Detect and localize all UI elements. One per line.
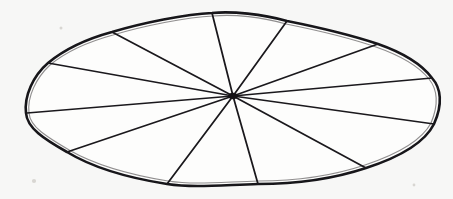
radial-sector-drawing <box>0 0 453 199</box>
figure-canvas: Hand-drawn irregular oval with a scallop… <box>0 0 453 199</box>
hub-point <box>228 93 238 99</box>
paper-speck <box>60 27 63 30</box>
paper-speck <box>32 179 36 183</box>
paper-speck <box>413 184 416 187</box>
